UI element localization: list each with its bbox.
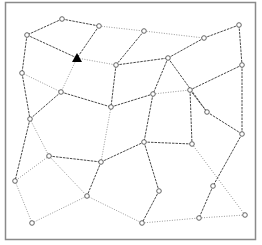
graph-node (47, 154, 52, 159)
diagram-canvas (0, 0, 262, 245)
graph-node (99, 160, 104, 165)
graph-node (205, 110, 210, 115)
graph-node (142, 140, 147, 145)
graph-node (202, 36, 207, 41)
graph-node (197, 216, 202, 221)
graph-node (28, 117, 33, 122)
graph-node (114, 63, 119, 68)
graph-node (13, 179, 18, 184)
graph-node (109, 105, 114, 110)
graph-node (166, 56, 171, 61)
graph-node (97, 24, 102, 29)
graph-node (59, 90, 64, 95)
graph-node (190, 142, 195, 147)
graph-node (211, 184, 216, 189)
graph-node (188, 88, 193, 93)
graph-node (240, 132, 245, 137)
diagram-frame (6, 3, 256, 240)
graph-node (151, 92, 156, 97)
graph-node (85, 194, 90, 199)
graph-node (237, 23, 242, 28)
graph-diagram (0, 0, 262, 245)
graph-node (30, 221, 35, 226)
graph-node (60, 17, 65, 22)
graph-node (240, 63, 245, 68)
graph-node (140, 221, 145, 226)
graph-node (243, 213, 248, 218)
graph-node (142, 29, 147, 34)
graph-node (157, 189, 162, 194)
graph-node (25, 33, 30, 38)
graph-node (20, 71, 25, 76)
